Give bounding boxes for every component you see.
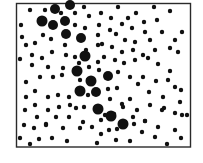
small-dot (143, 30, 147, 34)
small-dot (73, 55, 77, 59)
small-dot (99, 132, 103, 136)
small-dot (64, 53, 68, 57)
dot-field (18, 0, 189, 146)
small-dot (156, 62, 160, 66)
small-dot (130, 26, 134, 30)
large-dot (37, 16, 48, 27)
small-dot (46, 108, 50, 112)
large-dot (72, 66, 83, 77)
small-dot (19, 23, 23, 27)
small-dot (179, 136, 183, 140)
small-dot (155, 18, 159, 22)
small-dot (96, 60, 100, 64)
small-dot (33, 89, 37, 93)
small-dot (33, 41, 37, 45)
small-dot (59, 11, 63, 15)
small-dot (81, 120, 85, 124)
small-dot (61, 126, 65, 130)
small-dot (120, 22, 124, 26)
small-dot (135, 108, 139, 112)
large-dot (50, 4, 60, 14)
small-dot (18, 57, 22, 61)
small-dot (131, 48, 135, 52)
small-dot (108, 97, 112, 101)
small-dot (152, 5, 156, 9)
small-dot (86, 93, 90, 97)
small-dot (96, 33, 100, 37)
small-dot (97, 68, 101, 72)
small-dot (23, 108, 27, 112)
small-dot (133, 58, 137, 62)
large-dot (93, 104, 104, 115)
small-dot (141, 75, 145, 79)
small-dot (50, 50, 54, 54)
small-dot (51, 75, 55, 79)
small-dot (126, 16, 130, 20)
small-dot (32, 126, 36, 130)
small-dot (20, 35, 24, 39)
small-dot (153, 48, 157, 52)
small-dot (168, 9, 172, 13)
large-dot (91, 87, 101, 97)
small-dot (110, 45, 114, 49)
small-dot (68, 103, 72, 107)
small-dot (35, 115, 39, 119)
small-dot (38, 75, 42, 79)
small-dot (78, 126, 82, 130)
small-dot (24, 95, 28, 99)
small-dot (109, 16, 113, 20)
large-dot (76, 33, 86, 43)
small-dot (83, 26, 87, 30)
small-dot (44, 123, 48, 127)
small-dot (143, 119, 147, 123)
small-dot (102, 55, 106, 59)
small-dot (173, 128, 177, 132)
small-dot (82, 105, 86, 109)
small-dot (41, 33, 45, 37)
small-dot (179, 88, 183, 92)
small-dot (160, 108, 164, 112)
small-dot (134, 11, 138, 15)
small-dot (136, 82, 140, 86)
small-dot (161, 95, 165, 99)
small-dot (131, 115, 135, 119)
small-dot (28, 8, 32, 12)
small-dot (73, 23, 77, 27)
small-dot (153, 135, 157, 139)
dot-pattern-figure (0, 0, 203, 163)
small-dot (115, 127, 119, 131)
small-dot (128, 139, 132, 143)
small-dot (54, 115, 58, 119)
large-dot (65, 0, 75, 10)
small-dot (141, 53, 145, 57)
large-dot (60, 16, 70, 26)
small-dot (30, 53, 34, 57)
small-dot (22, 123, 26, 127)
small-dot (140, 130, 144, 134)
small-dot (61, 66, 65, 70)
small-dot (96, 43, 100, 47)
small-dot (178, 100, 182, 104)
small-dot (180, 30, 184, 34)
large-dot (118, 119, 129, 130)
small-dot (60, 73, 64, 77)
small-dot (168, 46, 172, 50)
small-dot (168, 69, 172, 73)
small-dot (116, 5, 120, 9)
small-dot (121, 105, 125, 109)
large-dot (103, 71, 113, 81)
small-dot (173, 38, 177, 42)
small-dot (160, 30, 164, 34)
figure-canvas (0, 0, 203, 163)
large-dot (106, 111, 117, 122)
small-dot (123, 38, 127, 42)
small-dot (97, 23, 101, 27)
small-dot (63, 43, 67, 47)
small-dot (132, 122, 136, 126)
large-dot (61, 29, 71, 39)
large-dot (75, 86, 86, 97)
small-dot (87, 65, 91, 69)
small-dot (24, 43, 28, 47)
small-dot (176, 50, 180, 54)
small-dot (166, 78, 170, 82)
